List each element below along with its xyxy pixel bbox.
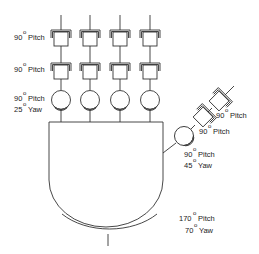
svg-text:Pitch: Pitch — [28, 65, 45, 74]
svg-text:Yaw: Yaw — [198, 161, 213, 170]
finger-4-joint-1 — [140, 30, 160, 46]
svg-text:o: o — [225, 107, 229, 113]
svg-text:Pitch: Pitch — [198, 214, 215, 223]
finger-4-joint-3 — [141, 91, 160, 111]
svg-text:170: 170 — [179, 214, 192, 223]
svg-text:o: o — [193, 146, 197, 152]
svg-text:Pitch: Pitch — [28, 94, 45, 103]
svg-text:Pitch: Pitch — [28, 33, 45, 42]
svg-text:o: o — [193, 210, 197, 216]
hand-diagram: 90 o Pitch 90 o Pitch 90 o Pitch 25 o Ya… — [0, 0, 259, 254]
svg-text:o: o — [23, 29, 27, 35]
finger-joint-2-label: 90 o Pitch — [14, 61, 45, 74]
thumb-joint-3-label: 90 o Pitch 45 o Yaw — [184, 146, 215, 170]
svg-text:90: 90 — [184, 150, 192, 159]
finger-1-joint-1 — [51, 30, 71, 46]
svg-text:90: 90 — [199, 127, 207, 136]
svg-text:Pitch: Pitch — [198, 150, 215, 159]
finger-4-joint-2 — [140, 63, 160, 79]
wrist-label: 170 o Pitch 70 o Yaw — [179, 210, 215, 235]
finger-2-joint-1 — [80, 30, 100, 46]
svg-text:90: 90 — [14, 65, 22, 74]
svg-text:o: o — [193, 157, 197, 163]
finger-3-joint-3 — [111, 91, 130, 111]
svg-text:25: 25 — [14, 105, 22, 114]
finger-joint-3-label: 90 o Pitch 25 o Yaw — [14, 90, 45, 114]
finger-2 — [80, 15, 100, 122]
finger-2-joint-2 — [80, 63, 100, 79]
svg-text:Pitch: Pitch — [213, 127, 230, 136]
finger-1-joint-2 — [51, 63, 71, 79]
svg-text:45: 45 — [184, 161, 192, 170]
svg-text:o: o — [208, 123, 212, 129]
svg-text:Yaw: Yaw — [199, 226, 214, 235]
svg-text:90: 90 — [216, 111, 224, 120]
thumb-tip-link — [225, 86, 234, 95]
palm-outline — [49, 122, 163, 227]
finger-3 — [110, 15, 130, 122]
svg-text:o: o — [23, 101, 27, 107]
svg-text:Pitch: Pitch — [230, 111, 247, 120]
finger-4 — [140, 15, 160, 122]
wrist — [62, 214, 157, 246]
svg-text:o: o — [23, 90, 27, 96]
svg-text:90: 90 — [14, 33, 22, 42]
svg-text:90: 90 — [14, 94, 22, 103]
finger-joint-1-label: 90 o Pitch — [14, 29, 45, 42]
svg-text:70: 70 — [185, 226, 193, 235]
svg-text:o: o — [23, 61, 27, 67]
palm — [49, 122, 163, 227]
thumb-base-link — [163, 143, 176, 153]
finger-1-joint-3 — [52, 91, 71, 111]
svg-text:Yaw: Yaw — [28, 105, 43, 114]
finger-2-joint-3 — [81, 91, 100, 111]
finger-3-joint-2 — [110, 63, 130, 79]
finger-1 — [51, 15, 71, 122]
finger-3-joint-1 — [110, 30, 130, 46]
